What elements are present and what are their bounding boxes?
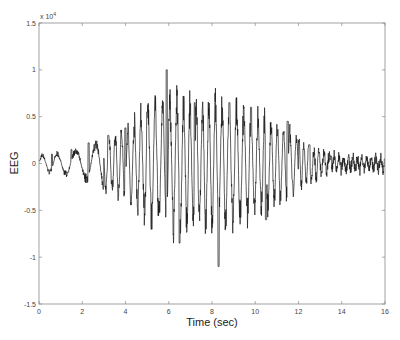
x-tick-label: 12 [295,308,303,315]
y-axis-label: EEG [8,151,20,174]
y-tick-label: 1.5 [26,20,36,27]
eeg-chart: 0246810121416 1.510.50-0.5-1-1.5 x 104 T… [0,0,400,340]
y-tick-label: 1 [32,66,36,73]
x-tick-label: 16 [381,308,389,315]
x-tick-label: 14 [338,308,346,315]
x-tick-label: 0 [37,308,41,315]
y-tick-label: -1.5 [24,301,36,308]
x-tick-label: 4 [124,308,128,315]
y-tick-label: 0 [32,160,36,167]
chart-background [0,0,400,340]
y-tick-label: -1 [30,254,36,261]
x-tick-label: 10 [251,308,259,315]
x-axis-label: Time (sec) [186,316,238,328]
x-tick-label: 6 [167,308,171,315]
x-tick-label: 2 [80,308,84,315]
y-tick-label: 0.5 [26,113,36,120]
y-tick-label: -0.5 [24,207,36,214]
x-tick-label: 8 [210,308,214,315]
